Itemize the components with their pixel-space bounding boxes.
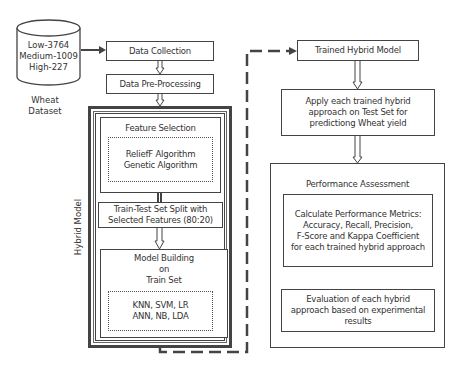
- classifiers-line2: ANN, NB, LDA: [132, 311, 188, 322]
- dataset-caption-line1: Wheat: [10, 95, 80, 106]
- data-preprocessing-box: Data Pre-Processing: [106, 74, 214, 94]
- train-test-split-line2: Selected Features (80:20): [108, 215, 213, 226]
- evaluation-line2: approach based on experimental: [291, 305, 426, 316]
- evaluation-line3: results: [344, 316, 371, 327]
- data-preprocessing-label: Data Pre-Processing: [119, 79, 200, 90]
- apply-test-set-box: Apply each trained hybrid approach on Te…: [281, 89, 435, 136]
- performance-assessment-title: Performance Assessment: [306, 179, 409, 190]
- metrics-line1: Calculate Performance Metrics:: [295, 209, 422, 220]
- dataset-caption-line2: Dataset: [10, 106, 80, 117]
- performance-metrics-box: Calculate Performance Metrics: Accuracy,…: [283, 194, 433, 267]
- hybrid-model-label: Hybrid Model: [73, 182, 83, 272]
- metrics-line2: Accuracy, Recall, Precision,: [303, 220, 413, 231]
- model-building-title-line1: Model Building: [134, 253, 194, 264]
- trained-hybrid-model-box: Trained Hybrid Model: [297, 40, 419, 61]
- genetic-algorithm: Genetic Algorithm: [124, 160, 198, 171]
- classifiers-line1: KNN, SVM, LR: [133, 300, 189, 311]
- metrics-line4: for each trained hybrid approach: [291, 242, 425, 253]
- dataset-counts: Low-3764 Medium-1009 High-227: [16, 40, 81, 73]
- dataset-low: Low-3764: [16, 40, 81, 51]
- evaluation-line1: Evaluation of each hybrid: [306, 294, 410, 305]
- arrow-dataset-to-collection: [81, 46, 106, 54]
- classifier-list: KNN, SVM, LR ANN, NB, LDA: [108, 291, 213, 331]
- apply-line3: predictiong Wheat yield: [310, 118, 407, 129]
- feature-selection-algorithms: ReliefF Algorithm Genetic Algorithm: [108, 137, 213, 182]
- data-collection-label: Data Collection: [129, 46, 191, 57]
- model-building-title-line3: Train Set: [146, 275, 181, 286]
- dataset-high: High-227: [16, 62, 81, 73]
- arrow-collection-to-preprocessing: [156, 60, 164, 74]
- feature-selection-title: Feature Selection: [125, 123, 196, 134]
- arrow-trained-to-apply: [353, 60, 362, 89]
- dataset-medium: Medium-1009: [16, 51, 81, 62]
- dataset-caption: Wheat Dataset: [10, 95, 80, 117]
- data-collection-box: Data Collection: [106, 41, 214, 61]
- trained-hybrid-model-label: Trained Hybrid Model: [315, 45, 401, 56]
- arrow-apply-to-performance: [353, 135, 362, 163]
- wheat-dataset-cylinder: Low-3764 Medium-1009 High-227: [16, 19, 81, 86]
- relieff-algorithm: ReliefF Algorithm: [126, 149, 196, 160]
- train-test-split-line1: Train-Test Set Split with: [114, 204, 207, 215]
- train-test-split-box: Train-Test Set Split with Selected Featu…: [98, 202, 223, 228]
- model-building-title-line2: on: [159, 264, 169, 275]
- metrics-line3: F-Score and Kappa Coefficient: [297, 231, 419, 242]
- evaluation-box: Evaluation of each hybrid approach based…: [281, 289, 435, 332]
- apply-line1: Apply each trained hybrid: [305, 96, 410, 107]
- apply-line2: approach on Test Set for: [309, 107, 408, 118]
- arrow-preprocessing-to-hybrid: [156, 93, 164, 106]
